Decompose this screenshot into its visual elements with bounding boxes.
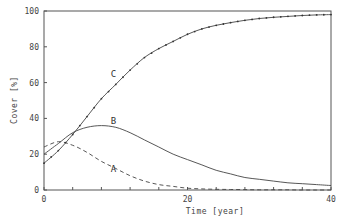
series-c-marker — [208, 26, 210, 28]
series-c-marker — [244, 19, 246, 21]
series-c-line — [44, 15, 331, 164]
series-c-marker — [43, 162, 45, 164]
series-c-marker — [273, 16, 275, 18]
curve-label-b: B — [111, 116, 116, 126]
series-c-marker — [323, 14, 325, 16]
series-c-marker — [222, 23, 224, 25]
series-layer — [43, 14, 332, 190]
curve-label-a: A — [111, 164, 117, 174]
curve-label-c: C — [111, 69, 116, 79]
series-c-marker — [309, 14, 311, 16]
series-c-marker — [57, 150, 59, 152]
series-c-marker — [165, 44, 167, 46]
series-c-marker — [237, 21, 239, 23]
series-b-line — [44, 126, 331, 186]
series-c-marker — [151, 52, 153, 54]
y-tick-label: 0 — [34, 186, 39, 195]
series-c-marker — [187, 33, 189, 35]
series-c-marker — [72, 134, 74, 136]
series-c-marker — [316, 14, 318, 16]
y-tick-label: 80 — [29, 43, 39, 52]
series-c-marker — [108, 91, 110, 93]
plot-border — [44, 11, 331, 190]
series-c-marker — [330, 14, 332, 16]
series-c-marker — [129, 69, 131, 71]
plot-frame — [44, 11, 331, 190]
series-c-marker — [158, 48, 160, 50]
series-c-marker — [144, 57, 146, 59]
y-tick-label: 100 — [25, 7, 40, 16]
series-c-marker — [280, 16, 282, 18]
series-c-marker — [93, 107, 95, 109]
series-c-marker — [266, 17, 268, 19]
y-tick-label: 60 — [29, 79, 39, 88]
series-c-marker — [122, 76, 124, 78]
y-tick-label: 20 — [29, 150, 39, 159]
x-tick-label: 40 — [326, 195, 336, 204]
series-c-marker — [201, 28, 203, 30]
series-c-marker — [194, 31, 196, 33]
series-c-marker — [301, 15, 303, 17]
series-c-marker — [101, 98, 103, 100]
series-c-marker — [251, 19, 253, 21]
y-tick-label: 40 — [29, 114, 39, 123]
x-tick-label: 0 — [42, 195, 47, 204]
series-c-marker — [258, 18, 260, 20]
series-c-marker — [287, 15, 289, 17]
series-c-marker — [115, 83, 117, 85]
series-c-marker — [179, 37, 181, 39]
series-c-marker — [79, 125, 81, 127]
x-tick-label: 20 — [183, 195, 193, 204]
series-c-marker — [215, 24, 217, 26]
chart: 02040608010002040 ABC Time [year] Cover … — [0, 0, 339, 222]
series-c-marker — [136, 63, 138, 65]
series-c-marker — [230, 22, 232, 24]
series-c-marker — [65, 142, 67, 144]
y-axis-title: Cover [%] — [10, 76, 19, 124]
series-c-marker — [294, 15, 296, 17]
x-axis-title: Time [year] — [186, 207, 244, 216]
axis-ticks: 02040608010002040 — [25, 7, 336, 204]
series-c-marker — [86, 116, 88, 118]
series-c-marker — [172, 41, 174, 43]
series-c-marker — [50, 156, 52, 158]
